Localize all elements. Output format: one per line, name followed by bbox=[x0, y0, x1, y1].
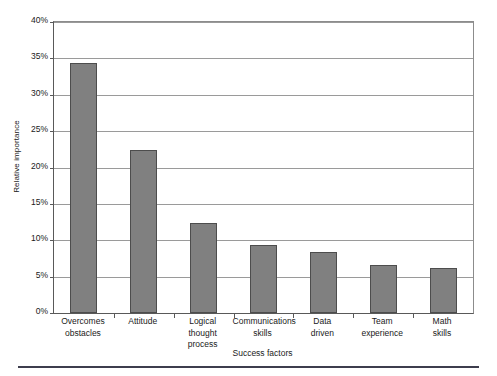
y-axis-tickmark bbox=[50, 204, 54, 205]
bar bbox=[250, 245, 277, 313]
y-axis-tickmark bbox=[50, 58, 54, 59]
y-axis-tick-label: 10% bbox=[22, 234, 48, 243]
x-axis-tick-label: Attitude bbox=[113, 316, 173, 328]
y-axis-tickmark bbox=[50, 22, 54, 23]
gridline bbox=[54, 58, 473, 59]
y-axis-tickmark bbox=[50, 240, 54, 241]
bar bbox=[430, 268, 457, 313]
y-axis-tick-label: 40% bbox=[22, 16, 48, 25]
x-axis-tick-label: Logicalthought process bbox=[173, 316, 233, 351]
x-axis-tick-label: Teamexperience bbox=[352, 316, 412, 339]
bar bbox=[70, 63, 97, 313]
bar bbox=[130, 150, 157, 313]
x-axis-tick-label-line: Math bbox=[412, 316, 472, 328]
bar bbox=[310, 252, 337, 313]
gridline bbox=[54, 22, 473, 23]
plot-area bbox=[53, 21, 474, 314]
x-axis-tick-label-line: Logical bbox=[173, 316, 233, 328]
gridline bbox=[54, 95, 473, 96]
y-axis-tickmark bbox=[50, 168, 54, 169]
y-axis-tick-label: 0% bbox=[22, 307, 48, 316]
x-axis-tick-label-line: experience bbox=[352, 328, 412, 340]
x-axis-tick-label: Datadriven bbox=[292, 316, 352, 339]
y-axis-tick-label: 5% bbox=[22, 271, 48, 280]
bar bbox=[190, 223, 217, 313]
x-axis-tick-label-line: Attitude bbox=[113, 316, 173, 328]
y-axis-tick-label: 20% bbox=[22, 162, 48, 171]
gridline bbox=[54, 240, 473, 241]
y-axis-tick-labels: 0%5%10%15%20%25%30%35%40% bbox=[20, 0, 48, 376]
x-axis-tick-label: Overcomesobstacles bbox=[53, 316, 113, 339]
y-axis-tick-label: 35% bbox=[22, 52, 48, 61]
x-axis-tick-label-line: driven bbox=[292, 328, 352, 340]
x-axis-tick-label-line: obstacles bbox=[53, 328, 113, 340]
bar-chart: Relative importance 0%5%10%15%20%25%30%3… bbox=[0, 0, 497, 376]
x-axis-title: Success factors bbox=[53, 348, 472, 358]
x-axis-tick-label: Communicationsskills bbox=[233, 316, 293, 339]
y-axis-tickmark bbox=[50, 131, 54, 132]
x-axis-tick-label-line: Communications bbox=[233, 316, 293, 328]
y-axis-tickmark bbox=[50, 313, 54, 314]
gridline bbox=[54, 131, 473, 132]
bottom-divider bbox=[18, 366, 479, 368]
gridline bbox=[54, 168, 473, 169]
y-axis-tick-label: 30% bbox=[22, 89, 48, 98]
x-axis-tick-label-line: skills bbox=[412, 328, 472, 340]
y-axis-tickmark bbox=[50, 277, 54, 278]
bar bbox=[370, 265, 397, 313]
x-axis-tick-label-line: skills bbox=[233, 328, 293, 340]
gridline bbox=[54, 204, 473, 205]
y-axis-tick-label: 25% bbox=[22, 125, 48, 134]
x-axis-tick-label-line: Data bbox=[292, 316, 352, 328]
x-axis-tick-label-line: Team bbox=[352, 316, 412, 328]
x-axis-tick-label-line: Overcomes bbox=[53, 316, 113, 328]
x-axis-tick-label: Mathskills bbox=[412, 316, 472, 339]
y-axis-tickmark bbox=[50, 95, 54, 96]
y-axis-tick-label: 15% bbox=[22, 198, 48, 207]
